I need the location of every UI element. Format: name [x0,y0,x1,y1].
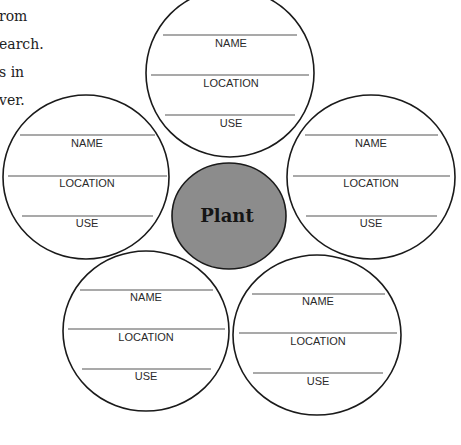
petal-bottom-right: NAME LOCATION USE [233,255,401,415]
petal-top-location-label: LOCATION [203,77,258,89]
petal-right: NAME LOCATION USE [287,95,455,259]
petal-top-use-label: USE [220,117,243,129]
center-node: Plant [172,163,286,269]
petal-bottom-left-name-label: NAME [130,291,162,303]
petal-left-name-label: NAME [71,137,103,149]
petal-top: NAME LOCATION USE [146,0,314,157]
petal-right-name-label: NAME [355,137,387,149]
petal-right-use-label: USE [360,217,383,229]
petal-right-location-label: LOCATION [343,177,398,189]
petal-left-use-label: USE [76,217,99,229]
petal-bottom-right-use-label: USE [307,375,330,387]
center-label: Plant [200,205,254,226]
petal-bottom-left: NAME LOCATION USE [63,251,229,411]
petal-bottom-left-location-label: LOCATION [118,331,173,343]
petal-bottom-left-use-label: USE [135,370,158,382]
petal-bottom-right-location-label: LOCATION [290,335,345,347]
petal-top-name-label: NAME [215,37,247,49]
petal-left: NAME LOCATION USE [3,95,169,259]
plant-web-diagram: NAME LOCATION USE NAME LOCATION USE NAME… [0,0,461,445]
petal-bottom-right-name-label: NAME [302,295,334,307]
petal-left-location-label: LOCATION [59,177,114,189]
